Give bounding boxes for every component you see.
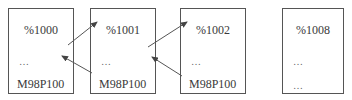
arrow-call-1001-to-1002 — [148, 22, 187, 47]
arrow-call-1000-to-1001 — [68, 22, 97, 45]
call-return-arrows — [0, 0, 352, 100]
arrow-return-1002-to-1001 — [152, 57, 182, 76]
arrow-return-1001-to-1000 — [62, 56, 92, 73]
